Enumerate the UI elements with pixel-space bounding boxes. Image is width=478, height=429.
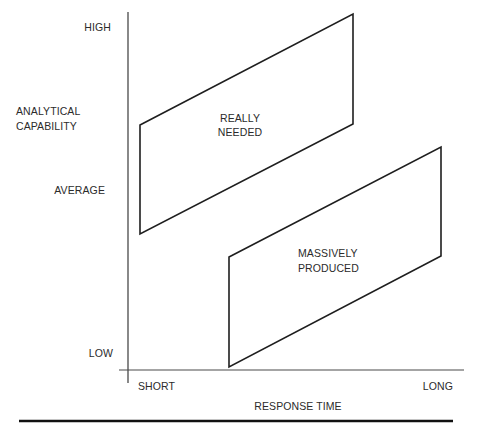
y-tick-low: LOW bbox=[70, 346, 113, 360]
y-tick-average: AVERAGE bbox=[40, 183, 105, 197]
x-tick-long: LONG bbox=[400, 379, 453, 393]
region-really-needed-label-line1: REALLY bbox=[200, 111, 280, 125]
y-axis-title-line2: CAPABILITY bbox=[16, 119, 77, 133]
y-tick-high: HIGH bbox=[70, 20, 111, 34]
y-axis-title-line1: ANALYTICAL bbox=[16, 104, 80, 118]
diagram-canvas: HIGH ANALYTICAL CAPABILITY AVERAGE LOW S… bbox=[0, 0, 478, 429]
region-massively-produced-label-line1: MASSIVELY bbox=[298, 246, 358, 260]
x-axis-title: RESPONSE TIME bbox=[230, 399, 366, 413]
x-tick-short: SHORT bbox=[138, 379, 175, 393]
diagram-graphics bbox=[0, 0, 478, 429]
region-really-needed-label-line2: NEEDED bbox=[200, 125, 280, 139]
region-massively-produced-label-line2: PRODUCED bbox=[298, 261, 359, 275]
